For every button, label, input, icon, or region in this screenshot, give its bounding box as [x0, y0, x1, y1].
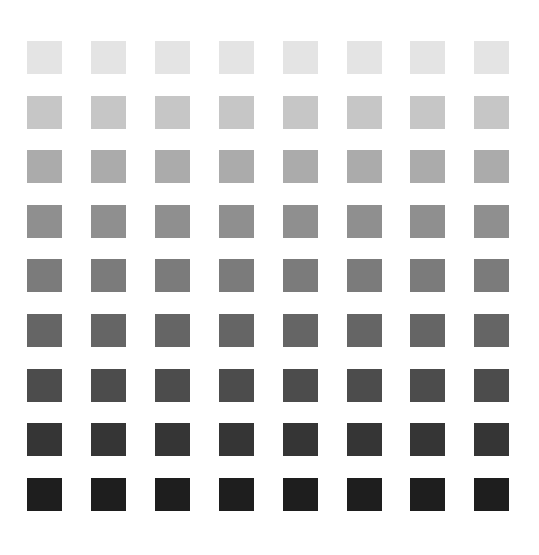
gray-square-r7-c5	[283, 369, 318, 402]
gray-square-r2-c1	[27, 96, 62, 129]
gray-square-r8-c1	[27, 423, 62, 456]
gray-square-r1-c2	[91, 41, 126, 74]
gray-square-r3-c4	[219, 150, 254, 183]
gray-square-r9-c2	[91, 478, 126, 511]
gray-square-r6-c7	[410, 314, 445, 347]
gray-square-r1-c5	[283, 41, 318, 74]
gray-square-r7-c6	[347, 369, 382, 402]
gray-square-r7-c3	[155, 369, 190, 402]
gray-square-r5-c8	[474, 259, 509, 292]
gray-square-r5-c3	[155, 259, 190, 292]
gray-square-r2-c8	[474, 96, 509, 129]
gray-square-r8-c2	[91, 423, 126, 456]
gray-square-r7-c4	[219, 369, 254, 402]
gray-square-r3-c3	[155, 150, 190, 183]
gray-square-r4-c5	[283, 205, 318, 238]
gray-square-r8-c8	[474, 423, 509, 456]
gray-square-r1-c3	[155, 41, 190, 74]
gray-square-r5-c4	[219, 259, 254, 292]
gray-square-r1-c4	[219, 41, 254, 74]
gray-square-r6-c8	[474, 314, 509, 347]
gray-square-r9-c3	[155, 478, 190, 511]
gray-square-r3-c1	[27, 150, 62, 183]
gray-square-r3-c7	[410, 150, 445, 183]
gray-square-r2-c6	[347, 96, 382, 129]
gray-square-r1-c7	[410, 41, 445, 74]
gray-square-r9-c8	[474, 478, 509, 511]
gray-square-r9-c5	[283, 478, 318, 511]
gray-square-r2-c7	[410, 96, 445, 129]
gray-square-r4-c8	[474, 205, 509, 238]
gray-square-r6-c6	[347, 314, 382, 347]
gray-square-r8-c5	[283, 423, 318, 456]
gray-square-r9-c7	[410, 478, 445, 511]
gray-square-r1-c1	[27, 41, 62, 74]
gray-square-r8-c4	[219, 423, 254, 456]
gray-square-r3-c8	[474, 150, 509, 183]
gray-square-r6-c2	[91, 314, 126, 347]
gray-square-r9-c1	[27, 478, 62, 511]
gray-square-r4-c4	[219, 205, 254, 238]
gray-square-r5-c2	[91, 259, 126, 292]
gray-square-r4-c2	[91, 205, 126, 238]
gray-square-r7-c1	[27, 369, 62, 402]
gray-square-r2-c2	[91, 96, 126, 129]
gray-square-r8-c7	[410, 423, 445, 456]
gray-square-r6-c1	[27, 314, 62, 347]
gray-square-r4-c3	[155, 205, 190, 238]
gray-square-r2-c4	[219, 96, 254, 129]
gray-square-r5-c1	[27, 259, 62, 292]
gray-square-r5-c6	[347, 259, 382, 292]
gray-square-r9-c6	[347, 478, 382, 511]
gray-square-r7-c7	[410, 369, 445, 402]
gray-square-r1-c8	[474, 41, 509, 74]
gray-square-r4-c7	[410, 205, 445, 238]
gray-square-r8-c6	[347, 423, 382, 456]
gray-square-r7-c2	[91, 369, 126, 402]
gray-square-r3-c2	[91, 150, 126, 183]
gray-square-r7-c8	[474, 369, 509, 402]
gray-square-r6-c5	[283, 314, 318, 347]
gray-square-r1-c6	[347, 41, 382, 74]
gray-square-r6-c3	[155, 314, 190, 347]
gray-square-r2-c3	[155, 96, 190, 129]
gray-square-r2-c5	[283, 96, 318, 129]
gray-square-r3-c6	[347, 150, 382, 183]
gray-square-r5-c7	[410, 259, 445, 292]
gray-square-r9-c4	[219, 478, 254, 511]
grayscale-square-grid	[0, 0, 539, 555]
gray-square-r4-c6	[347, 205, 382, 238]
gray-square-r8-c3	[155, 423, 190, 456]
gray-square-r4-c1	[27, 205, 62, 238]
gray-square-r5-c5	[283, 259, 318, 292]
gray-square-r3-c5	[283, 150, 318, 183]
gray-square-r6-c4	[219, 314, 254, 347]
